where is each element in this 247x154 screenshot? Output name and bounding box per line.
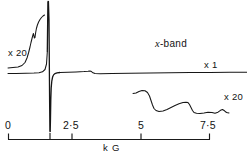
gain-label-high-field: x 20 [224,92,243,102]
tick-label-0: 0 [5,120,11,131]
tick-label-2p5: 2·5 [63,120,79,131]
band-label: x-band [155,39,187,50]
tick-label-5: 5 [138,120,144,131]
band-label-suffix: -band [160,38,187,49]
epr-spectrum-figure: x 20 x-band x 1 x 20 0 2·5 5 7·5 k G [0,0,247,154]
high-field-inset-trace [133,91,229,114]
main-resonance-spike [47,1,60,132]
main-trace-right-baseline [60,71,247,74]
low-field-inset-trace [8,15,45,68]
tick-label-7p5: 7·5 [200,120,216,131]
gain-label-main: x 1 [204,60,218,70]
gain-label-low-field: x 20 [8,48,27,58]
x-axis-title: k G [103,143,120,153]
